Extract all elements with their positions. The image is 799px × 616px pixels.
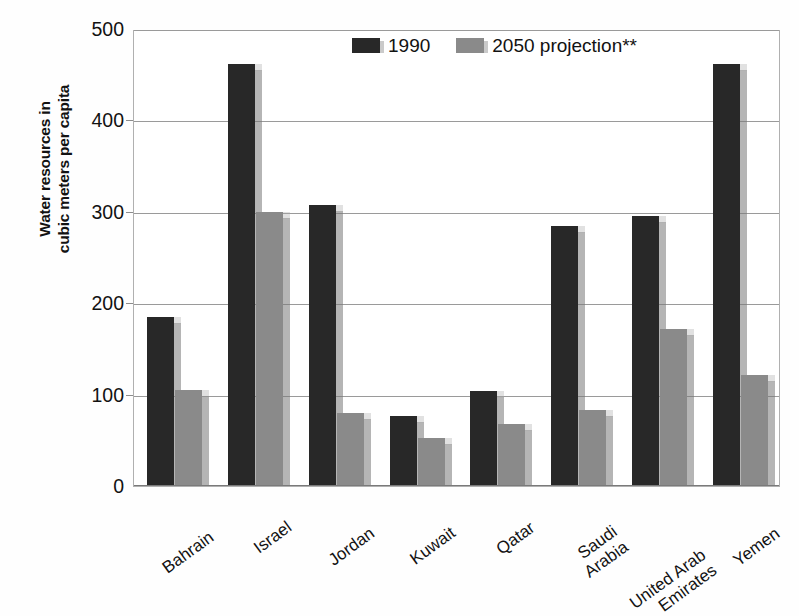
x-axis-label-line: Yemen (729, 524, 782, 570)
x-axis-label-line: Qatar (493, 518, 539, 558)
x-axis-label-line: Kuwait (407, 523, 459, 568)
x-axis-label-line: Bahrain (159, 527, 218, 577)
x-axis-label-yemen: Yemen (729, 524, 782, 570)
x-axis-label-kuwait: Kuwait (407, 523, 459, 568)
x-axis-label-line: Jordan (325, 524, 378, 570)
x-axis-label-bahrain: Bahrain (159, 527, 218, 577)
x-axis-label-qatar: Qatar (493, 518, 539, 558)
x-axis-label-saudi-arabia: SaudiArabia (569, 522, 631, 582)
x-axis-label-united-arab-emirates: United ArabEmirates (626, 545, 720, 616)
x-axis-label-israel: Israel (251, 517, 296, 557)
x-axis-label-line: Israel (251, 517, 296, 557)
x-axis-label-jordan: Jordan (325, 524, 378, 570)
